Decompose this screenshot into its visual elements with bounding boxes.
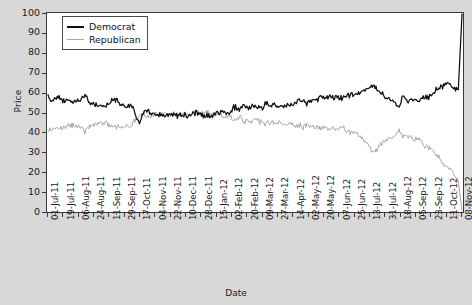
y-tick-label: 100 bbox=[4, 7, 40, 18]
x-tick-mark-minor bbox=[254, 213, 255, 215]
x-tick-mark bbox=[170, 213, 171, 217]
x-tick-mark bbox=[277, 213, 278, 217]
x-tick-mark-minor bbox=[85, 213, 86, 215]
x-tick-mark bbox=[47, 213, 48, 217]
x-tick-mark bbox=[446, 213, 447, 217]
x-tick-mark-minor bbox=[101, 213, 102, 215]
x-tick-mark-minor bbox=[453, 213, 454, 215]
x-tick-mark-minor bbox=[300, 213, 301, 215]
x-tick-mark bbox=[154, 213, 155, 217]
x-tick-mark bbox=[185, 213, 186, 217]
x-tick-mark bbox=[262, 213, 263, 217]
x-tick-mark-minor bbox=[331, 213, 332, 215]
legend-swatch-republican bbox=[67, 39, 84, 40]
legend-item-republican: Republican bbox=[67, 33, 141, 46]
y-tick-label: 60 bbox=[4, 86, 40, 97]
x-tick-mark bbox=[338, 213, 339, 217]
x-tick-mark-minor bbox=[315, 213, 316, 215]
x-tick-mark bbox=[430, 213, 431, 217]
x-tick-mark-minor bbox=[438, 213, 439, 215]
x-tick-mark bbox=[400, 213, 401, 217]
x-tick-mark-minor bbox=[346, 213, 347, 215]
x-tick-mark-minor bbox=[116, 213, 117, 215]
x-tick-mark-minor bbox=[147, 213, 148, 215]
legend-label-republican: Republican bbox=[89, 34, 141, 45]
y-tick-label: 90 bbox=[4, 26, 40, 37]
x-tick-mark bbox=[415, 213, 416, 217]
x-tick-mark-minor bbox=[239, 213, 240, 215]
x-tick-mark bbox=[139, 213, 140, 217]
x-tick-mark-minor bbox=[392, 213, 393, 215]
y-tick-label: 80 bbox=[4, 46, 40, 57]
x-tick-mark-minor bbox=[223, 213, 224, 215]
x-tick-label: 08-Nov-12 bbox=[464, 176, 472, 220]
x-tick-mark-minor bbox=[377, 213, 378, 215]
x-tick-mark-minor bbox=[285, 213, 286, 215]
x-tick-mark-minor bbox=[193, 213, 194, 215]
x-tick-mark bbox=[216, 213, 217, 217]
chart-figure: Price 0102030405060708090100 Democrat Re… bbox=[0, 0, 472, 305]
x-tick-mark-minor bbox=[423, 213, 424, 215]
x-tick-mark-minor bbox=[131, 213, 132, 215]
x-tick-mark bbox=[461, 213, 462, 217]
x-tick-mark bbox=[354, 213, 355, 217]
y-tick-label: 70 bbox=[4, 66, 40, 77]
x-tick-mark bbox=[93, 213, 94, 217]
x-tick-mark bbox=[292, 213, 293, 217]
x-tick-mark bbox=[384, 213, 385, 217]
x-tick-mark bbox=[108, 213, 109, 217]
y-tick-label: 50 bbox=[4, 106, 40, 117]
x-tick-mark bbox=[308, 213, 309, 217]
x-tick-mark-minor bbox=[407, 213, 408, 215]
y-axis-label: Price bbox=[13, 71, 23, 131]
x-tick-mark-minor bbox=[162, 213, 163, 215]
y-tick-label: 10 bbox=[4, 186, 40, 197]
legend-item-democrat: Democrat bbox=[67, 20, 141, 33]
x-tick-mark bbox=[200, 213, 201, 217]
x-tick-mark bbox=[78, 213, 79, 217]
x-tick-mark-minor bbox=[55, 213, 56, 215]
x-axis-label: Date bbox=[0, 288, 472, 298]
x-tick-mark-minor bbox=[70, 213, 71, 215]
y-tick-label: 20 bbox=[4, 166, 40, 177]
x-tick-mark bbox=[369, 213, 370, 217]
x-tick-mark bbox=[231, 213, 232, 217]
y-tick-label: 0 bbox=[4, 206, 40, 217]
x-tick-mark bbox=[323, 213, 324, 217]
x-tick-mark bbox=[62, 213, 63, 217]
x-tick-mark-minor bbox=[177, 213, 178, 215]
x-tick-mark bbox=[124, 213, 125, 217]
x-tick-mark-minor bbox=[269, 213, 270, 215]
x-tick-mark-minor bbox=[361, 213, 362, 215]
y-tick-label: 40 bbox=[4, 126, 40, 137]
chart-legend: Democrat Republican bbox=[62, 16, 148, 50]
legend-swatch-democrat bbox=[67, 26, 84, 28]
x-tick-mark-minor bbox=[208, 213, 209, 215]
x-tick-mark bbox=[246, 213, 247, 217]
legend-label-democrat: Democrat bbox=[89, 21, 135, 32]
y-tick-label: 30 bbox=[4, 146, 40, 157]
